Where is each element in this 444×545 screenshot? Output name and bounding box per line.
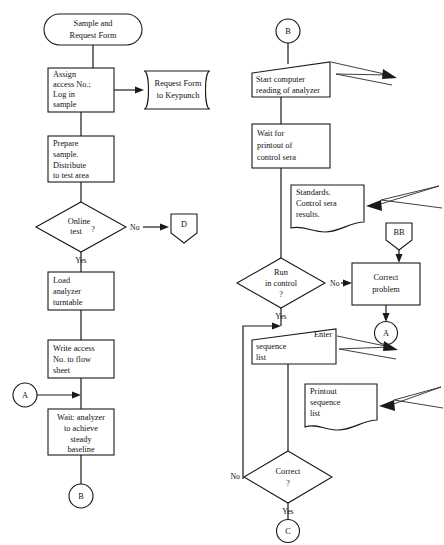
connector-b-in: B: [276, 19, 300, 43]
node-start-terminator: Sample and Request Form: [44, 14, 142, 45]
assign-access-line-3: Log in: [53, 90, 76, 99]
wait-analyzer-line-3: steady: [70, 435, 92, 444]
prepare-sample-line-3: Distribute: [53, 161, 87, 170]
write-access-line-2: No. to flow: [53, 355, 91, 364]
arrowhead-bb: [396, 254, 403, 263]
callout-start-computer-arrowhead: [382, 69, 397, 79]
load-analyzer-line-3: turntable: [53, 298, 83, 307]
correct-decision-line-1: Correct: [276, 467, 302, 476]
connector-a-out-label: A: [383, 329, 389, 338]
online-test-no-label: No: [130, 223, 140, 232]
node-standards-document: Standards. Control sera results.: [291, 185, 364, 232]
node-wait-analyzer: Wait: analyzer to achieve steady baselin…: [48, 409, 114, 455]
arrowhead-run-control-no: [343, 280, 352, 287]
prepare-sample-line-4: to test area: [53, 171, 89, 180]
connector-b-out-label: B: [78, 492, 84, 501]
connector-d-label: D: [181, 220, 187, 229]
node-write-access: Write access No. to flow sheet: [48, 340, 114, 378]
wait-printout-line-3: control sera: [257, 153, 296, 162]
node-load-analyzer: Load analyzer turntable: [48, 272, 114, 310]
wait-printout-line-2: printout of: [257, 141, 292, 150]
flowchart-svg: Sample and Request Form Assign access No…: [0, 0, 444, 545]
callout-standards: [366, 186, 442, 211]
assign-access-line-2: access No.;: [53, 80, 91, 89]
online-test-question-mark: ?: [91, 225, 95, 234]
connector-a-out: A: [375, 322, 398, 345]
assign-access-line-1: Assign: [53, 70, 77, 79]
wait-analyzer-line-4: baseline: [67, 445, 95, 454]
printout-line-1: Printout: [310, 387, 337, 396]
correct-decision-no-label: No: [230, 472, 240, 481]
flowchart-canvas: Sample and Request Form Assign access No…: [0, 0, 444, 545]
callout-printout: [379, 387, 443, 411]
arrowhead-correct-problem-to-a: [383, 313, 390, 322]
wait-analyzer-line-2: to achieve: [64, 424, 98, 433]
node-request-form-keypunch: Request Form to Keypunch: [144, 71, 210, 109]
connector-a-in-label: A: [22, 391, 28, 400]
standards-line-3: results.: [296, 210, 320, 219]
callout-printout-arrowhead: [379, 400, 395, 411]
run-in-control-question-mark: ?: [279, 290, 283, 299]
arrowhead-online-test-no: [160, 224, 169, 231]
callout-standards-arrowhead: [366, 200, 382, 211]
online-test-line-1: Online: [68, 217, 91, 226]
prepare-sample-line-2: sample.: [53, 150, 79, 159]
node-wait-printout: Wait for printout of control sera: [252, 124, 330, 168]
load-analyzer-line-2: analyzer: [53, 287, 81, 296]
assign-access-line-4: sample: [53, 100, 77, 109]
enter-sequence-line-3: list: [256, 353, 267, 362]
arrowhead-assign-to-keypunch: [135, 87, 144, 94]
run-in-control-no-label: No: [330, 279, 340, 288]
write-access-line-1: Write access: [53, 344, 95, 353]
wait-printout-line-1: Wait for: [257, 129, 284, 138]
arrowhead-correct-no-feedback: [272, 323, 281, 330]
wait-analyzer-line-1: Wait: analyzer: [57, 413, 105, 422]
node-prepare-sample: Prepare sample. Distribute to test area: [48, 136, 114, 182]
connector-c-out: C: [277, 520, 300, 543]
run-in-control-line-2: in control: [265, 279, 298, 288]
node-online-test-decision: Online test ?: [36, 202, 126, 252]
correct-problem-line-1: Correct: [374, 273, 400, 282]
printout-line-2: sequence: [310, 398, 341, 407]
node-correct-problem: Correct problem: [352, 263, 420, 305]
start-computer-line-1: Start computer: [256, 75, 305, 84]
connector-d: D: [171, 214, 197, 243]
standards-line-1: Standards.: [296, 188, 331, 197]
node-enter-sequence: Enter sequence list: [252, 329, 336, 364]
start-computer-line-2: reading of analyzer: [256, 86, 320, 95]
connector-a-in: A: [13, 383, 37, 407]
load-analyzer-line-1: Load: [53, 276, 71, 285]
connector-b-out: B: [69, 484, 93, 508]
connector-b-in-label: B: [285, 27, 291, 36]
arrowhead-a-in: [72, 392, 81, 399]
prepare-sample-line-1: Prepare: [53, 139, 79, 148]
start-terminator-line-2: Request Form: [70, 31, 117, 40]
callout-start-computer: [331, 62, 397, 85]
node-assign-access: Assign access No.; Log in sample: [48, 68, 114, 112]
enter-sequence-line-2: sequence: [256, 342, 287, 351]
callout-printout-line: [388, 387, 443, 408]
request-form-keypunch-line-1: Request Form: [155, 79, 202, 88]
enter-sequence-line-1: Enter: [314, 330, 332, 339]
connector-bb: BB: [386, 223, 412, 250]
run-in-control-line-1: Run: [274, 268, 289, 277]
connector-c-out-label: C: [285, 527, 291, 536]
node-correct-decision: Correct ?: [244, 451, 332, 503]
request-form-keypunch-line-2: to Keypunch: [157, 91, 200, 100]
standards-line-2: Control sera: [296, 199, 337, 208]
write-access-line-3: sheet: [53, 366, 71, 375]
online-test-line-2: test: [70, 227, 82, 236]
node-start-computer: Start computer reading of analyzer: [252, 62, 330, 97]
node-printout-document: Printout sequence list: [305, 384, 377, 430]
connector-bb-label: BB: [393, 228, 405, 237]
correct-problem-line-2: problem: [372, 285, 400, 294]
callout-standards-line: [374, 186, 442, 208]
node-run-in-control-decision: Run in control ?: [237, 258, 325, 308]
start-terminator-line-1: Sample and: [74, 19, 114, 28]
correct-decision-question-mark: ?: [286, 479, 290, 488]
correct-decision-shape: [244, 451, 332, 503]
printout-line-3: list: [310, 409, 321, 418]
